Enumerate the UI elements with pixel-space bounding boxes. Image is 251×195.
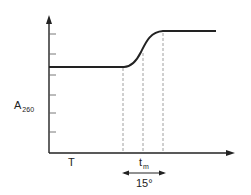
y-axis-arrow-icon: [46, 15, 52, 24]
melting-curve-diagram: A260 T tm 15°: [0, 0, 251, 195]
range-arrow-left-icon: [122, 171, 129, 176]
diagram-graphics: [0, 0, 251, 195]
x-label-tm: tm: [139, 157, 149, 170]
range-label: 15°: [136, 178, 153, 189]
dashed-guides: [123, 33, 163, 153]
melting-curve: [49, 31, 216, 67]
y-axis-label: A260: [14, 100, 34, 113]
y-axis-ticks: [49, 34, 56, 132]
x-label-T: T: [68, 157, 75, 168]
range-arrow-right-icon: [159, 171, 166, 176]
x-axis-arrow-icon: [226, 150, 235, 156]
